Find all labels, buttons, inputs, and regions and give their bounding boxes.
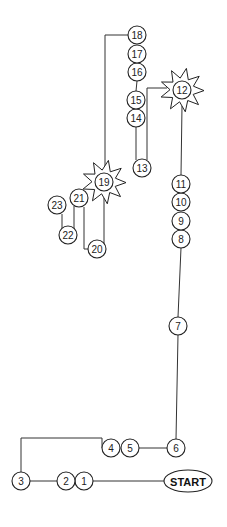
connector-line: [136, 81, 137, 91]
space-number: 15: [130, 95, 142, 106]
space-23: 23: [48, 196, 66, 214]
space-number: 19: [98, 177, 110, 188]
space-6: 6: [167, 439, 185, 457]
space-10: 10: [172, 193, 190, 211]
path-connectors: [21, 35, 182, 481]
connector-line: [181, 106, 182, 175]
connector-line: [176, 335, 178, 439]
space-3: 3: [12, 472, 30, 490]
space-12: 12: [161, 68, 204, 111]
space-number: 10: [175, 197, 187, 208]
space-number: 22: [62, 230, 74, 241]
space-number: 2: [63, 476, 69, 487]
path-spaces: START12345678910111213141516171819202122…: [12, 26, 212, 492]
space-number: 23: [51, 200, 63, 211]
space-number: 5: [127, 443, 133, 454]
space-8: 8: [172, 230, 190, 248]
space-7: 7: [169, 317, 187, 335]
space-4: 4: [102, 439, 120, 457]
space-number: 4: [108, 443, 114, 454]
space-17: 17: [128, 45, 146, 63]
connector-line: [147, 88, 167, 160]
space-number: 16: [131, 67, 143, 78]
space-number: 18: [131, 30, 143, 41]
board-game-path-diagram: START12345678910111213141516171819202122…: [0, 0, 227, 527]
space-number: 9: [178, 216, 184, 227]
space-2: 2: [57, 472, 75, 490]
space-15: 15: [127, 91, 145, 109]
space-21: 21: [70, 189, 88, 207]
space-19: 19: [83, 160, 126, 203]
space-13: 13: [133, 159, 151, 177]
space-number: 3: [18, 476, 24, 487]
space-number: 1: [81, 476, 87, 487]
space-11: 11: [172, 175, 190, 193]
space-number: 21: [73, 193, 85, 204]
space-number: 7: [175, 321, 181, 332]
space-1: 1: [75, 472, 93, 490]
connector-line: [105, 35, 128, 166]
space-number: 14: [130, 113, 142, 124]
space-number: 20: [91, 244, 103, 255]
space-number: 17: [131, 49, 143, 60]
space-number: 13: [136, 163, 148, 174]
space-5: 5: [121, 439, 139, 457]
space-16: 16: [128, 63, 146, 81]
space-number: 12: [176, 85, 188, 96]
connector-line: [21, 438, 102, 472]
space-number: 11: [176, 179, 187, 190]
space-9: 9: [172, 212, 190, 230]
connector-line: [104, 198, 106, 249]
space-number: 6: [173, 443, 179, 454]
connector-line: [84, 207, 88, 249]
start-label: START: [170, 476, 206, 488]
space-14: 14: [127, 109, 145, 127]
space-22: 22: [59, 226, 77, 244]
start-space: START: [164, 470, 212, 492]
connector-line: [178, 248, 181, 317]
space-number: 8: [178, 234, 184, 245]
space-20: 20: [88, 240, 106, 258]
space-18: 18: [128, 26, 146, 44]
